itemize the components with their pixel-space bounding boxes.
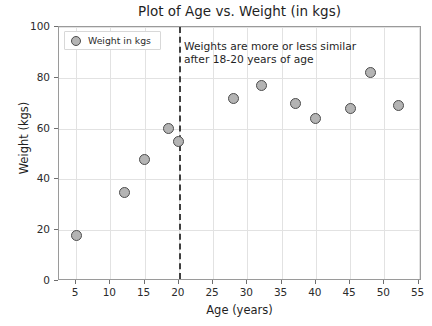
- y-tick-20: [54, 229, 58, 230]
- x-tick-label-35: 35: [274, 286, 287, 298]
- legend-marker-icon: [71, 36, 81, 46]
- data-point: [139, 154, 150, 165]
- y-tick-40: [54, 178, 58, 179]
- x-tick-label-30: 30: [240, 286, 253, 298]
- data-point: [345, 103, 356, 114]
- data-point: [365, 67, 376, 78]
- x-tick-label-55: 55: [411, 286, 424, 298]
- x-tick-label-50: 50: [377, 286, 390, 298]
- data-point: [173, 136, 184, 147]
- gridline-y-40: [59, 179, 420, 180]
- x-tick-label-5: 5: [72, 286, 79, 298]
- gridline-x-55: [419, 27, 420, 279]
- x-tick-40: [315, 280, 316, 284]
- x-tick-20: [178, 280, 179, 284]
- data-point: [393, 100, 404, 111]
- x-tick-35: [281, 280, 282, 284]
- x-tick-label-20: 20: [171, 286, 184, 298]
- data-point: [228, 93, 239, 104]
- y-tick-80: [54, 77, 58, 78]
- gridline-x-5: [76, 27, 77, 279]
- x-tick-label-25: 25: [205, 286, 218, 298]
- threshold-dashed-line: [179, 27, 181, 279]
- annotation-line: Weights are more or less similar: [184, 40, 356, 53]
- x-tick-30: [246, 280, 247, 284]
- y-axis-label: Weight (kgs): [17, 68, 31, 208]
- plot-area: Weights are more or less similarafter 18…: [58, 26, 421, 280]
- legend-label: Weight in kgs: [88, 35, 151, 46]
- annotation-line: after 18-20 years of age: [184, 53, 356, 66]
- y-tick-60: [54, 128, 58, 129]
- x-tick-55: [418, 280, 419, 284]
- data-point: [290, 98, 301, 109]
- x-tick-45: [349, 280, 350, 284]
- y-tick-100: [54, 26, 58, 27]
- x-tick-label-15: 15: [137, 286, 150, 298]
- gridline-x-15: [145, 27, 146, 279]
- data-point: [71, 230, 82, 241]
- gridline-x-50: [384, 27, 385, 279]
- y-tick-label-100: 100: [14, 20, 50, 32]
- annotation-text: Weights are more or less similarafter 18…: [184, 40, 356, 66]
- chart-legend: Weight in kgs: [64, 31, 161, 50]
- x-tick-label-40: 40: [308, 286, 321, 298]
- y-tick-label-20: 20: [14, 223, 50, 235]
- scatter-chart-figure: Plot of Age vs. Weight (in kgs) Weights …: [0, 0, 432, 326]
- data-point: [256, 80, 267, 91]
- x-tick-50: [383, 280, 384, 284]
- gridline-y-100: [59, 27, 420, 28]
- x-tick-10: [109, 280, 110, 284]
- y-tick-0: [54, 280, 58, 281]
- y-tick-label-0: 0: [14, 274, 50, 286]
- x-tick-label-45: 45: [342, 286, 355, 298]
- gridline-y-80: [59, 78, 420, 79]
- gridline-x-10: [110, 27, 111, 279]
- data-point: [163, 123, 174, 134]
- x-tick-15: [144, 280, 145, 284]
- x-tick-5: [75, 280, 76, 284]
- x-tick-25: [212, 280, 213, 284]
- gridline-y-20: [59, 230, 420, 231]
- x-tick-label-10: 10: [103, 286, 116, 298]
- gridline-y-60: [59, 129, 420, 130]
- chart-title: Plot of Age vs. Weight (in kgs): [58, 3, 421, 19]
- x-axis-label: Age (years): [58, 303, 421, 317]
- data-point: [310, 113, 321, 124]
- data-point: [119, 187, 130, 198]
